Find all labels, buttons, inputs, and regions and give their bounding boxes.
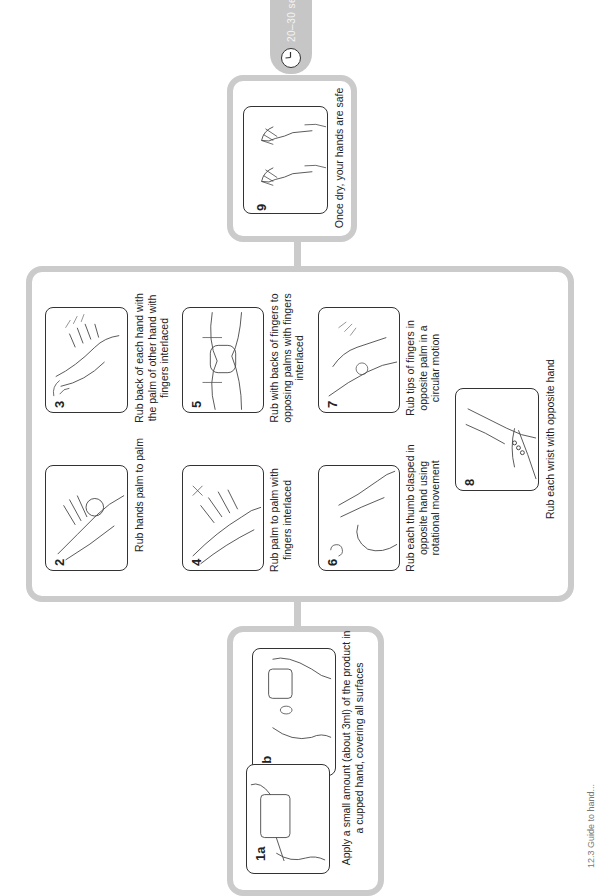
step-4-illustration: 4	[182, 465, 264, 571]
step-2-illustration: 2	[45, 465, 128, 571]
step-number: 7	[325, 401, 340, 408]
step-number: 8	[462, 479, 477, 486]
clock-icon	[281, 48, 301, 68]
step-3-label: Rub back of each hand with the palm of o…	[133, 288, 171, 428]
step-7-illustration: 7	[318, 307, 400, 413]
timer-label: 20–30 se	[286, 0, 297, 42]
step-3-illustration: 3	[45, 307, 128, 413]
step-9-label: Once dry, your hands are safe	[333, 80, 346, 236]
step-1-label: Apply a small amount (about 3ml) of the …	[340, 628, 365, 868]
step-number: 4	[189, 559, 204, 566]
fingertips-palm-icon	[319, 308, 399, 412]
fingers-interlaced-icon	[183, 466, 263, 570]
step-7-label: Rub tips of fingers in opposite palm in …	[404, 308, 442, 428]
step-number: 6	[325, 559, 340, 566]
connector-line	[294, 241, 301, 269]
step-6-illustration: 6	[318, 465, 400, 571]
step-number: 3	[52, 401, 67, 408]
step-1a-illustration: 1a	[246, 764, 330, 874]
connector-line	[294, 600, 301, 628]
step-9-illustration: 9	[243, 106, 328, 214]
thumb-rotation-icon	[319, 466, 399, 570]
step-number: 5	[189, 401, 204, 408]
backs-of-fingers-icon	[183, 308, 263, 412]
step-number: 1a	[253, 847, 268, 861]
step-number: 9	[254, 204, 269, 211]
step-8-label: Rub each wrist with opposite hand	[544, 356, 557, 522]
interlaced-back-hands-icon	[46, 308, 127, 412]
drying-hands-icon	[244, 107, 327, 213]
wrist-rub-icon	[456, 389, 538, 490]
palm-to-palm-icon	[46, 466, 127, 570]
step-number: 2	[52, 559, 67, 566]
timer-pill: 20–30 se	[270, 0, 312, 74]
step-4-label: Rub palm to palm with fingers interlaced	[268, 465, 293, 575]
step-8-illustration: 8	[455, 388, 539, 491]
figure-caption: 12.3 Guide to hand...	[586, 784, 596, 868]
step-6-label: Rub each thumb clasped in opposite hand …	[404, 438, 442, 578]
step-5-label: Rub with backs of fingers to opposing pa…	[268, 288, 306, 428]
step-2-label: Rub hands palm to palm	[133, 415, 146, 575]
step-5-illustration: 5	[182, 307, 264, 413]
step-1b-illustration: 1b	[252, 648, 336, 776]
